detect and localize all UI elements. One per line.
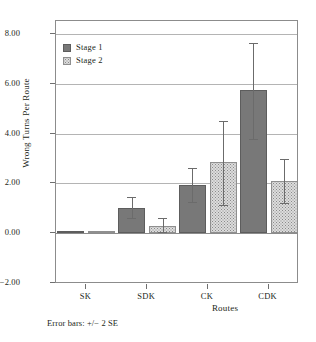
error-bar-cap-lower <box>127 218 136 219</box>
y-tick-label: 6.00 <box>5 78 20 87</box>
error-bar-cap-lower <box>280 203 289 204</box>
error-bar-cap-upper <box>219 121 228 122</box>
error-bar-line <box>132 197 133 218</box>
error-bar-cap-lower <box>188 202 197 203</box>
x-tick-label-cdk: CDK <box>258 291 277 301</box>
bar-sk-stage2 <box>88 231 115 233</box>
error-bar-cap-upper <box>249 43 258 44</box>
y-tick-label: 4.00 <box>5 128 20 137</box>
error-bar-line <box>192 168 193 202</box>
error-bar-line <box>223 121 224 204</box>
x-tick-mark <box>85 284 86 289</box>
legend-item-stage1: Stage 1 <box>63 41 103 54</box>
error-bar-cap-lower <box>219 205 228 206</box>
error-bar-cap-upper <box>280 159 289 160</box>
gridline-6 <box>56 84 297 85</box>
bar-sk-stage1 <box>57 231 84 233</box>
x-tick-mark <box>268 284 269 289</box>
x-axis-title-text: Routes <box>212 303 238 313</box>
x-tick-mark <box>146 284 147 289</box>
bar-chart-figure: 8.006.004.002.000.00−2.00 Wrong Turns Pe… <box>0 0 316 342</box>
error-bar-cap-upper <box>127 197 136 198</box>
error-bar-footnote: Error bars: +/− 2 SE <box>47 318 118 328</box>
y-tick-label: 8.00 <box>5 29 20 38</box>
x-axis-title: Routes <box>0 303 316 313</box>
stage2-swatch-icon <box>63 57 71 65</box>
gridline-8 <box>56 34 297 35</box>
legend-label-stage2: Stage 2 <box>76 54 103 67</box>
y-tick-label: 0.00 <box>5 228 20 237</box>
legend: Stage 1Stage 2 <box>63 41 103 67</box>
error-bar-cap-lower <box>249 139 258 140</box>
error-bar-line <box>253 43 254 139</box>
stage1-swatch-icon <box>63 44 71 52</box>
x-tick-mark <box>207 284 208 289</box>
error-bar-line <box>284 159 285 204</box>
y-axis-title: Wrong Turns Per Route <box>21 43 31 203</box>
y-tick-label: −2.00 <box>0 278 20 287</box>
legend-label-stage1: Stage 1 <box>76 41 103 54</box>
error-bar-cap-upper <box>158 218 167 219</box>
x-tick-label-sk: SK <box>80 291 91 301</box>
gridline-0 <box>56 233 297 234</box>
x-tick-label-sdk: SDK <box>137 291 155 301</box>
y-tick-label: 2.00 <box>5 178 20 187</box>
x-tick-label-ck: CK <box>201 291 213 301</box>
error-bar-cap-lower <box>158 232 167 233</box>
error-bar-cap-upper <box>188 168 197 169</box>
legend-item-stage2: Stage 2 <box>63 54 103 67</box>
error-bar-line <box>163 218 164 232</box>
